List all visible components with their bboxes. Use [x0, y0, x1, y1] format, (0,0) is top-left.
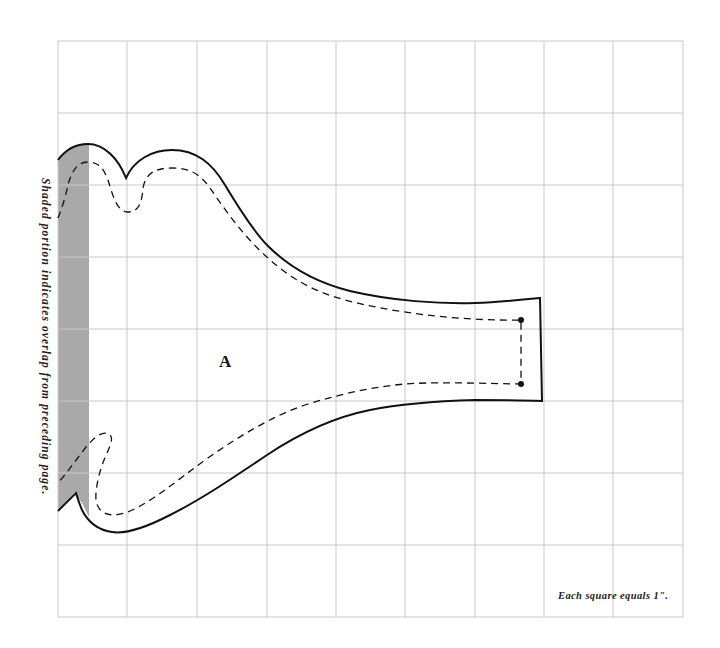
cutting-line	[58, 144, 542, 532]
overlap-shaded-strip	[58, 143, 89, 517]
pattern-sheet: Shaded portion indicates overlap from pr…	[0, 0, 720, 648]
piece-label: A	[219, 352, 231, 372]
grid	[58, 41, 683, 617]
seam-marker-top	[518, 317, 524, 323]
seam-marker-bottom	[518, 381, 524, 387]
pattern-diagram	[0, 0, 720, 648]
overlap-note: Shaded portion indicates overlap from pr…	[40, 178, 52, 478]
scale-note: Each square equals 1".	[558, 590, 668, 601]
